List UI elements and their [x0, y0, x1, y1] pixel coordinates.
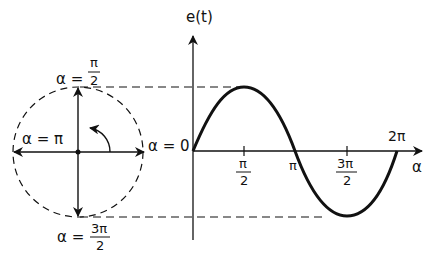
- tick-pi-half-den: 2: [240, 173, 248, 188]
- label-left: α = π: [22, 130, 63, 148]
- x-axis-label: α: [412, 158, 422, 176]
- label-top-num: π: [90, 55, 98, 70]
- label-bottom-den: 2: [96, 238, 104, 253]
- tick-2pi: 2π: [388, 128, 406, 144]
- label-bottom-prefix: α =: [57, 228, 84, 246]
- label-bottom-num: 3π: [91, 221, 107, 236]
- tick-pi-half-num: π: [239, 156, 247, 171]
- center-dot: [76, 150, 81, 155]
- label-top-prefix: α =: [56, 70, 83, 88]
- rotation-arrow-icon: [90, 128, 110, 152]
- y-axis-label: e(t): [186, 8, 213, 26]
- label-top-den: 2: [90, 73, 98, 88]
- phasor-sine-diagram: e(t) α α = π 2 α = π α = 0 α = 3π 2 π 2 …: [0, 0, 435, 259]
- tick-3pi-half-den: 2: [343, 173, 351, 188]
- tick-3pi-half-num: 3π: [337, 156, 353, 171]
- label-right: α = 0: [148, 137, 190, 155]
- tick-pi: π: [289, 158, 297, 173]
